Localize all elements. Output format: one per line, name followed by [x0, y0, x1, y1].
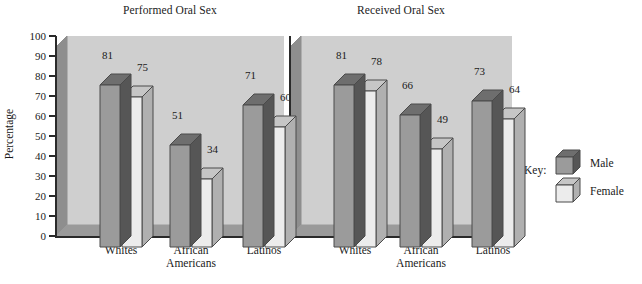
chart-received-oral-sex: Received Oral Sex8178Whites6649African A…	[290, 0, 512, 284]
y-axis-tick-label: 30	[35, 171, 49, 182]
y-axis-tick-label: 40	[35, 151, 49, 162]
bar-male-2	[243, 94, 274, 247]
bar-male-0	[100, 74, 131, 247]
bar-front-face	[334, 74, 365, 247]
legend-title: Key:	[524, 164, 546, 176]
cube-front-face	[556, 150, 582, 176]
cube-front-face	[556, 178, 582, 204]
legend-entry-female[interactable]: Female	[556, 178, 624, 204]
bar-value-label: 75	[137, 62, 148, 73]
bar-value-label: 66	[402, 80, 413, 91]
legend-entry-label: Female	[590, 185, 624, 197]
y-axis-line	[55, 36, 57, 237]
bar-value-label: 81	[336, 50, 347, 61]
bar-front-face	[170, 134, 201, 247]
bar-value-label: 73	[474, 66, 485, 77]
y-axis-tick-label: 80	[35, 71, 49, 82]
y-axis-tick-label: 0	[41, 231, 50, 242]
y-axis-tick-label: 60	[35, 111, 49, 122]
bar-male-1	[400, 104, 431, 247]
chart-title: Performed Oral Sex	[56, 4, 284, 16]
x-axis-line	[55, 236, 272, 238]
bar-front-face	[472, 90, 503, 247]
figure-root: Performed Oral Sex1009080706050403020100…	[0, 0, 642, 284]
bar-value-label: 78	[371, 56, 382, 67]
y-axis-tick-label: 100	[30, 31, 50, 42]
dark-cube-icon	[556, 150, 582, 176]
legend-entry-label: Male	[590, 157, 614, 169]
chart-title: Received Oral Sex	[290, 4, 512, 16]
y-axis-tick-label: 50	[35, 131, 49, 142]
bar-value-label: 81	[102, 50, 113, 61]
x-axis-line	[289, 236, 500, 238]
bar-front-face	[400, 104, 431, 247]
y-axis-tick-label: 70	[35, 91, 49, 102]
bar-front-face	[100, 74, 131, 247]
bar-value-label: 64	[509, 84, 520, 95]
y-axis-label: Percentage	[3, 89, 15, 179]
bar-male-2	[472, 90, 503, 247]
chart-performed-oral-sex: Performed Oral Sex1009080706050403020100…	[56, 0, 284, 284]
bar-value-label: 49	[437, 114, 448, 125]
bar-front-face	[243, 94, 274, 247]
bar-value-label: 34	[207, 144, 218, 155]
legend: Key:MaleFemale	[524, 150, 634, 214]
y-axis-tick-label: 20	[35, 191, 49, 202]
bar-male-0	[334, 74, 365, 247]
legend-entry-male[interactable]: Male	[556, 150, 614, 176]
y-axis-tick-label: 90	[35, 51, 49, 62]
bar-male-1	[170, 134, 201, 247]
bar-value-label: 51	[172, 110, 183, 121]
y-axis-tick-label: 10	[35, 211, 49, 222]
light-cube-icon	[556, 178, 582, 204]
bar-value-label: 71	[245, 70, 256, 81]
